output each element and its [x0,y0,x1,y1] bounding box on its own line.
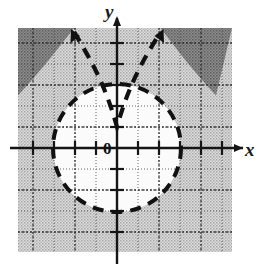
x-axis-label: x [245,140,255,159]
x-axis-arrowhead [234,144,243,152]
coordinate-plane-svg [0,0,265,274]
inequality-graph-figure: y x 0 [0,0,265,274]
y-axis-arrowhead [113,16,121,26]
origin-label: 0 [103,140,112,157]
y-axis-label: y [105,2,113,21]
